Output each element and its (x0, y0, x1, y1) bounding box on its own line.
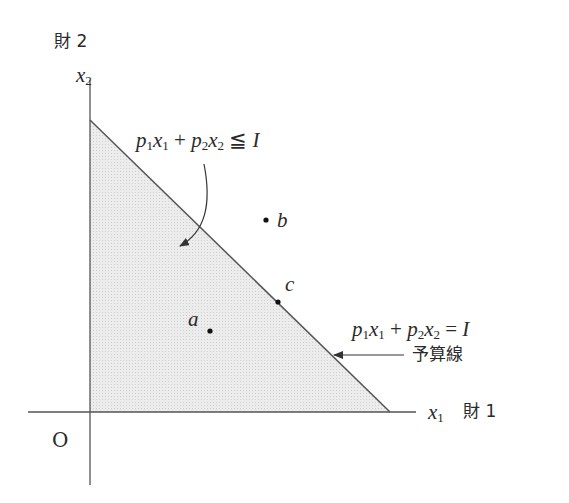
eq-plus: + (390, 317, 402, 341)
eq-rhs: I (462, 317, 469, 341)
ineq-p1: p (136, 128, 147, 152)
point-a-dot (207, 328, 212, 333)
ineq-p2: p (191, 128, 202, 152)
y-axis-variable: x2 (76, 65, 92, 87)
good-1-label: 財 1 (463, 403, 496, 420)
ineq-rhs: I (253, 128, 260, 152)
good-2-label: 財 2 (54, 33, 87, 50)
point-a-label: a (188, 309, 199, 330)
budget-inequality: p1x1 + p2x2 ≦ I (136, 130, 260, 152)
point-c-dot (275, 299, 280, 304)
eq-x2-sub: 2 (434, 327, 441, 342)
budget-equation: p1x1 + p2x2 = I (352, 319, 469, 341)
eq-x1: x (369, 317, 378, 341)
x-axis-variable: x1 (428, 402, 444, 424)
ineq-x1-sub: 1 (162, 138, 169, 153)
x-axis-var: x (428, 400, 437, 424)
eq-x1-sub: 1 (378, 327, 385, 342)
point-b-label: b (277, 210, 288, 231)
budget-line-label: 予算線 (412, 346, 463, 363)
point-c-label: c (285, 274, 294, 295)
point-b-dot (263, 217, 268, 222)
y-axis-var: x (76, 63, 85, 87)
eq-p1: p (352, 317, 363, 341)
x-axis-var-sub: 1 (437, 410, 444, 425)
eq-rel: = (445, 317, 457, 341)
ineq-x1: x (153, 128, 162, 152)
ineq-x2-sub: 2 (218, 138, 225, 153)
y-axis-var-sub: 2 (85, 73, 92, 88)
ineq-x2: x (208, 128, 217, 152)
ineq-rel: ≦ (229, 128, 247, 152)
eq-x2: x (424, 317, 433, 341)
ineq-plus: + (174, 128, 186, 152)
origin-label: O (52, 430, 68, 450)
eq-p2: p (407, 317, 418, 341)
